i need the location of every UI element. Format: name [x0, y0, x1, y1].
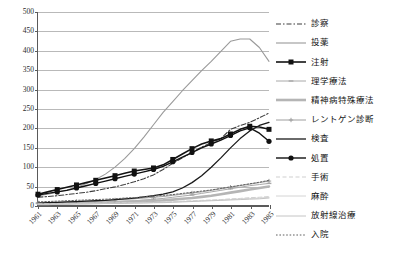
x-tick-mark [96, 205, 97, 209]
y-tick-label: 50 [27, 183, 35, 191]
legend-label: 投薬 [311, 38, 329, 47]
y-tick-label: 200 [23, 125, 34, 133]
y-tick-label: 400 [23, 47, 34, 55]
legend-swatch-icon [276, 152, 306, 164]
x-tick-mark [115, 205, 116, 209]
data-point [228, 133, 233, 138]
data-point [132, 172, 137, 177]
series-line [38, 126, 269, 194]
series-診察 [38, 113, 269, 197]
series-line [38, 113, 269, 197]
series-投薬 [38, 39, 269, 196]
legend-item-手術[interactable]: 手術 [276, 168, 329, 187]
legend-label: 処置 [311, 154, 329, 163]
data-point [289, 117, 293, 121]
data-point [289, 80, 294, 81]
data-point [74, 185, 79, 190]
line-chart: 050100150200250300350400450500 196119631… [0, 0, 415, 257]
data-point [93, 181, 98, 186]
y-tick-label: 500 [23, 8, 34, 16]
legend-item-検査[interactable]: 検査 [276, 129, 329, 148]
legend-swatch-icon [276, 171, 306, 183]
x-tick-label: 1961 [27, 210, 43, 226]
legend-label: レントゲン診断 [311, 115, 374, 124]
x-tick-label: 1973 [143, 210, 159, 226]
y-tick-label: 0 [30, 202, 34, 210]
series-line [38, 128, 269, 195]
legend-item-放射線治療[interactable]: 放射線治療 [276, 206, 356, 225]
legend-item-診察[interactable]: 診察 [276, 14, 329, 33]
series-line [38, 39, 269, 196]
legend-swatch-icon [276, 37, 306, 49]
y-tick-label: 300 [23, 86, 34, 94]
x-tick-mark [270, 205, 271, 209]
data-point [247, 125, 252, 130]
data-point [35, 192, 40, 197]
data-point [151, 167, 156, 172]
legend-swatch-icon [276, 18, 306, 30]
legend-swatch-icon [276, 94, 306, 106]
legend-item-精神病特殊療法[interactable]: 精神病特殊療法 [276, 91, 374, 110]
x-tick-label: 1981 [221, 210, 237, 226]
legend-label: 放射線治療 [311, 211, 356, 220]
y-tick-label: 350 [23, 66, 34, 74]
x-tick-label: 1971 [124, 210, 140, 226]
legend-label: 麻酔 [311, 192, 329, 201]
legend-label: 精神病特殊療法 [311, 96, 374, 105]
x-tick-mark [135, 205, 136, 209]
legend-item-麻酔[interactable]: 麻酔 [276, 187, 329, 206]
legend-item-投薬[interactable]: 投薬 [276, 33, 329, 52]
x-tick-label: 1975 [163, 210, 179, 226]
x-tick-label: 1979 [201, 210, 217, 226]
legend-label: 入院 [311, 230, 329, 239]
data-point [112, 176, 117, 181]
data-point [266, 139, 271, 144]
legend-swatch-icon [276, 75, 306, 87]
x-tick-mark [38, 205, 39, 209]
x-tick-label: 1983 [240, 210, 256, 226]
legend-label: 診察 [311, 19, 329, 28]
legend-item-処置[interactable]: 処置 [276, 148, 329, 167]
y-tick-label: 100 [23, 163, 34, 171]
y-tick-label: 150 [23, 144, 34, 152]
legend-swatch-icon [276, 133, 306, 145]
data-point [189, 150, 194, 155]
chart-legend: 診察投薬注射理学療法精神病特殊療法レントゲン診断検査処置手術麻酔放射線治療入院 [276, 14, 415, 242]
data-point [289, 59, 294, 64]
legend-swatch-icon [276, 190, 306, 202]
legend-label: 理学療法 [311, 77, 347, 86]
plot-area: 050100150200250300350400450500 196119631… [37, 12, 269, 206]
legend-label: 検査 [311, 134, 329, 143]
x-tick-mark [231, 205, 232, 209]
x-tick-mark [173, 205, 174, 209]
x-tick-label: 1969 [105, 210, 121, 226]
data-point [209, 141, 214, 146]
legend-swatch-icon [276, 229, 306, 241]
x-tick-label: 1977 [182, 210, 198, 226]
x-tick-label: 1967 [85, 210, 101, 226]
data-point [55, 189, 60, 194]
y-tick-label: 250 [23, 105, 34, 113]
legend-label: 注射 [311, 58, 329, 67]
legend-item-注射[interactable]: 注射 [276, 52, 329, 71]
data-point [267, 127, 272, 132]
x-tick-mark [212, 205, 213, 209]
y-tick-label: 450 [23, 28, 34, 36]
legend-swatch-icon [276, 210, 306, 222]
legend-label: 手術 [311, 173, 329, 182]
legend-swatch-icon [276, 56, 306, 68]
legend-swatch-icon [276, 114, 306, 126]
data-point [170, 159, 175, 164]
x-tick-mark [57, 205, 58, 209]
legend-item-理学療法[interactable]: 理学療法 [276, 72, 347, 91]
data-point [288, 155, 293, 160]
x-tick-label: 1985 [259, 210, 275, 226]
x-tick-mark [77, 205, 78, 209]
x-tick-label: 1963 [47, 210, 63, 226]
x-tick-label: 1965 [66, 210, 82, 226]
x-tick-mark [193, 205, 194, 209]
legend-item-入院[interactable]: 入院 [276, 225, 329, 244]
series-layer [38, 12, 269, 205]
legend-item-レントゲン診断[interactable]: レントゲン診断 [276, 110, 374, 129]
x-tick-mark [251, 205, 252, 209]
